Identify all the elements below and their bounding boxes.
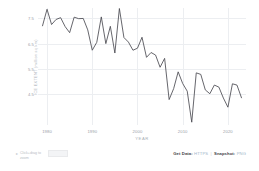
caret-right-icon: ▸ — [16, 151, 18, 157]
chart-app: 7.56.55.54.5 19801990200020102020 YEAR I… — [0, 0, 259, 171]
zoom-hint: ▸ Click+drag to zoom — [16, 151, 46, 160]
y-axis-title: ICE EXTENT (million sq km) — [34, 39, 38, 95]
snapshot-label: Snapshot: — [214, 151, 235, 156]
y-tick-label: 7.5 — [28, 16, 34, 21]
series-path — [43, 9, 242, 123]
zoom-range-box[interactable] — [48, 150, 68, 157]
snapshot-link[interactable]: PNG — [237, 151, 246, 156]
x-axis-title: YEAR — [135, 136, 148, 141]
plot-area[interactable]: 7.56.55.54.5 19801990200020102020 YEAR I… — [38, 8, 246, 125]
x-tick-label: 2010 — [178, 129, 188, 134]
x-tick-label: 1990 — [87, 129, 97, 134]
series-line-chart — [38, 8, 246, 125]
zoom-hint-label: Click+drag to zoom — [20, 151, 46, 160]
footer-links: Get Data: HTTPS | Snapshot: PNG — [173, 151, 246, 156]
x-tick-label: 2000 — [133, 129, 143, 134]
get-data-label: Get Data: — [173, 151, 193, 156]
chart-footer: ▸ Click+drag to zoom Get Data: HTTPS | S… — [0, 145, 259, 171]
x-tick-label: 2020 — [223, 129, 233, 134]
x-tick-label: 1980 — [42, 129, 52, 134]
get-data-link[interactable]: HTTPS — [194, 151, 208, 156]
footer-separator: | — [210, 151, 213, 156]
